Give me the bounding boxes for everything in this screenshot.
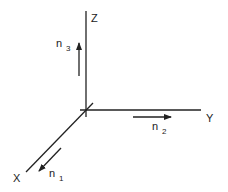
n1-label: n [49,167,55,179]
n1-subscript: 1 [59,174,64,183]
z-axis-label: Z [91,12,98,24]
n3-label: n [56,37,62,49]
axes-diagram: Z Y X n 3 n 2 n 1 [0,0,228,192]
x-axis-label: X [13,172,21,184]
n3-subscript: 3 [66,44,71,53]
n2-subscript: 2 [162,127,167,136]
y-axis-label: Y [206,112,214,124]
n2-label: n [152,120,158,132]
x-axis-line [26,103,93,172]
